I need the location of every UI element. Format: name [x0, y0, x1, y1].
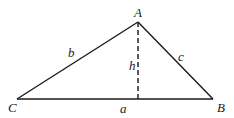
altitude-label-h: h: [129, 58, 136, 73]
vertex-label-c: C: [8, 100, 17, 115]
side-label-c: c: [178, 49, 184, 64]
vertex-label-a: A: [133, 5, 142, 20]
vertex-label-b: B: [217, 100, 225, 115]
side-label-b: b: [68, 45, 75, 60]
triangle-diagram: A b c h C a B: [0, 0, 234, 118]
side-c-line: [138, 22, 213, 99]
side-b-line: [17, 22, 138, 99]
side-label-a: a: [120, 101, 127, 116]
